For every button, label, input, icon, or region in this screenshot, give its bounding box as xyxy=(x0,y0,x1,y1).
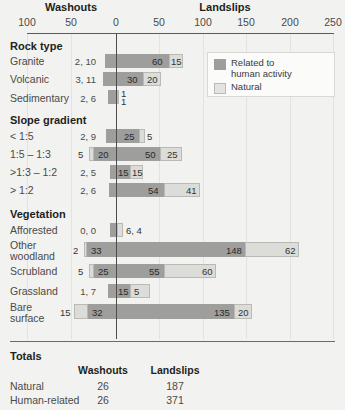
row-label-afforested: Afforested xyxy=(10,225,58,236)
value-right-natural-grassland: 5 xyxy=(134,286,139,297)
legend-item-natural: Natural xyxy=(214,82,328,94)
value-left-human-scrubland: 25 xyxy=(98,266,109,277)
row-left-values-afforested: 0, 0 xyxy=(58,225,96,236)
totals-divider xyxy=(10,341,335,342)
value-left-natural-scrubland: 5 xyxy=(78,266,83,277)
row-left-values-slope-lt-1-5: 2, 9 xyxy=(58,131,96,142)
tick-label-5: 150 xyxy=(237,16,255,28)
value-left-human-other-woodland: 33 xyxy=(91,245,102,256)
legend-swatch-human-icon xyxy=(214,59,226,70)
bar-row-other-woodland: Other woodland 2 33 148 62 xyxy=(0,240,345,262)
bar-left-human-granite xyxy=(105,54,116,68)
totals-col-head-landslips: Landslips xyxy=(150,364,199,376)
totals-title: Totals xyxy=(10,350,42,362)
value-left-human-bare-surface: 32 xyxy=(92,307,103,318)
bar-right-afforested xyxy=(117,223,123,237)
row-label-slope-1-5-1-3: 1:5 – 1:3 xyxy=(10,149,51,160)
value-right-human-slope-1-3-1-2: 15 xyxy=(118,167,129,178)
row-left-values-volcanic: 3, 11 xyxy=(58,74,96,85)
bar-row-grassland: Grassland 1, 7 15 5 xyxy=(0,284,345,299)
row-label-bare-surface-line2: surface xyxy=(10,313,44,324)
value-right-natural-other-woodland: 62 xyxy=(285,245,296,256)
bar-row-slope-1-5-1-3: 1:5 – 1:3 5 20 50 25 xyxy=(0,147,345,162)
totals-row-label-human-related: Human-related xyxy=(10,394,79,406)
value-right-human-granite: 60 xyxy=(152,56,163,67)
value-right-human-grassland: 15 xyxy=(118,286,129,297)
bar-left-human-slope-1-3-1-2 xyxy=(110,165,116,179)
value-left-natural-slope-1-5-1-3: 5 xyxy=(78,149,83,160)
row-label-scrubland: Scrubland xyxy=(10,266,57,277)
value-right-human-other-woodland: 148 xyxy=(226,245,242,256)
bar-row-slope-lt-1-5: < 1:5 2, 9 25 5 xyxy=(0,129,345,144)
axis-tick-labels: 100 50 0 50 100 150 200 250 xyxy=(0,16,345,30)
bar-left-human-slope-lt-1-5 xyxy=(106,129,116,143)
value-right-natural-scrubland: 60 xyxy=(202,266,213,277)
bar-row-scrubland: Scrubland 5 25 55 60 xyxy=(0,264,345,279)
legend-item-human: Related to human activity xyxy=(214,58,328,79)
legend-label-human: Related to human activity xyxy=(231,58,292,79)
value-left-natural-bare-surface: 15 xyxy=(60,307,71,318)
bar-left-human-afforested xyxy=(110,223,116,237)
value-right-natural-slope-lt-1-5: 5 xyxy=(147,131,152,142)
bar-left-natural-bare-surface xyxy=(74,304,88,319)
tick-label-6: 200 xyxy=(281,16,299,28)
totals-table: Totals Washouts Landslips Natural 26 187… xyxy=(0,348,345,408)
row-left-values-sedimentary: 2, 6 xyxy=(58,93,96,104)
value-left-human-slope-1-5-1-3: 20 xyxy=(98,149,109,160)
bar-left-human-volcanic xyxy=(103,72,116,86)
legend-swatch-natural-icon xyxy=(214,83,226,94)
value-right-human-slope-gt-1-2: 54 xyxy=(148,185,159,196)
value-right-afforested: 6, 4 xyxy=(126,225,142,236)
totals-col-head-washouts: Washouts xyxy=(78,364,128,376)
bar-right-natural-slope-lt-1-5 xyxy=(139,129,145,143)
value-right-human-bare-surface: 135 xyxy=(214,307,230,318)
legend-label-natural: Natural xyxy=(231,82,262,93)
value-right-human-scrubland: 55 xyxy=(149,266,160,277)
row-label-other-woodland-line1: Other xyxy=(10,240,36,251)
bar-left-human-grassland xyxy=(108,284,116,298)
value-right-natural-volcanic: 20 xyxy=(147,74,158,85)
tick-label-7: 250 xyxy=(324,16,342,28)
section-header-slope-gradient: Slope gradient xyxy=(10,114,86,126)
section-header-rock-type: Rock type xyxy=(10,40,63,52)
bar-row-afforested: Afforested 0, 0 6, 4 xyxy=(0,223,345,238)
row-left-values-slope-1-3-1-2: 2, 5 xyxy=(58,167,96,178)
row-label-grassland: Grassland xyxy=(10,286,58,297)
row-label-slope-lt-1-5: < 1:5 xyxy=(10,131,34,142)
tick-label-3: 50 xyxy=(153,16,165,28)
value-right-natural-sedimentary: 1 xyxy=(121,96,126,107)
row-left-values-grassland: 1, 7 xyxy=(58,286,96,297)
legend-label-human-line2: human activity xyxy=(231,68,292,79)
row-label-slope-gt-1-2: > 1:2 xyxy=(10,185,34,196)
legend-label-human-line1: Related to xyxy=(231,57,274,68)
diverging-bar-chart: Washouts Landslips 100 50 0 50 100 150 2… xyxy=(0,0,345,410)
axis-titles: Washouts Landslips xyxy=(0,1,345,15)
row-left-values-granite: 2, 10 xyxy=(58,56,96,67)
bar-row-slope-gt-1-2: > 1:2 2, 6 54 41 xyxy=(0,183,345,198)
value-right-human-slope-1-5-1-3: 50 xyxy=(145,149,156,160)
row-label-volcanic: Volcanic xyxy=(10,74,49,85)
bar-row-slope-1-3-1-2: >1:3 – 1:2 2, 5 15 15 xyxy=(0,165,345,180)
tick-label-2: 0 xyxy=(113,16,119,28)
row-label-bare-surface-line1: Bare xyxy=(10,302,32,313)
bar-right-natural-grassland xyxy=(130,284,150,298)
tick-label-0: 100 xyxy=(18,16,36,28)
value-right-natural-bare-surface: 20 xyxy=(238,307,249,318)
tick-label-1: 50 xyxy=(65,16,77,28)
value-right-natural-granite: 15 xyxy=(171,56,182,67)
row-label-other-woodland-line2: woodland xyxy=(10,251,55,262)
bar-row-bare-surface: Bare surface 15 32 135 20 xyxy=(0,302,345,324)
totals-natural-washouts: 26 xyxy=(97,380,109,392)
axis-title-washouts: Washouts xyxy=(45,1,97,13)
value-right-natural-slope-1-5-1-3: 25 xyxy=(167,149,178,160)
value-right-natural-slope-1-3-1-2: 15 xyxy=(132,167,143,178)
totals-human-washouts: 26 xyxy=(97,394,109,406)
section-header-vegetation: Vegetation xyxy=(10,208,66,220)
row-left-values-slope-gt-1-2: 2, 6 xyxy=(58,185,96,196)
value-right-human-volcanic: 30 xyxy=(127,74,138,85)
row-label-granite: Granite xyxy=(10,56,44,67)
totals-human-landslips: 371 xyxy=(166,394,184,406)
bar-left-human-slope-gt-1-2 xyxy=(109,183,116,197)
value-right-natural-slope-gt-1-2: 41 xyxy=(186,185,197,196)
totals-row-label-natural: Natural xyxy=(10,380,44,392)
